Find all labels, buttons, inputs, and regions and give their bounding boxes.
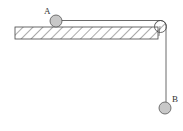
pulley-diagram: A B [0, 0, 183, 131]
ball-a-label: A [44, 6, 51, 16]
ball-a [50, 15, 62, 27]
ball-b-label: B [172, 94, 178, 104]
table-surface [15, 27, 158, 39]
ball-b [159, 102, 171, 114]
